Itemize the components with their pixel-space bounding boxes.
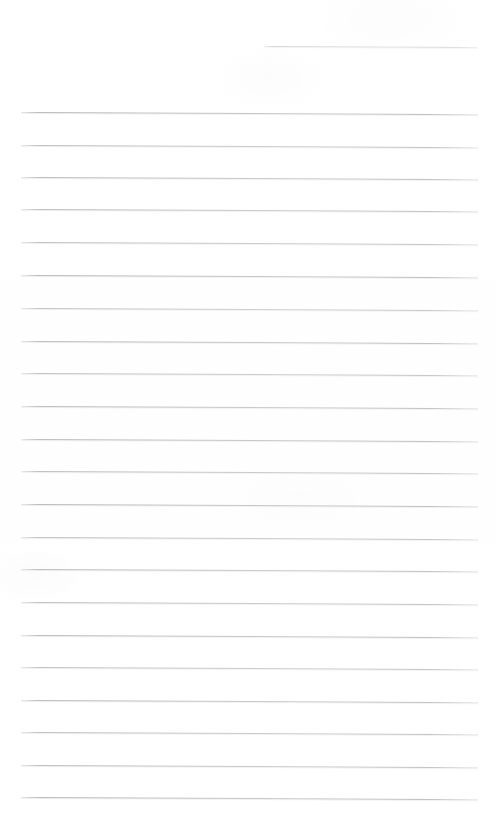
rule-line <box>21 406 478 409</box>
rule-line <box>21 112 478 115</box>
scanned-page <box>0 0 496 828</box>
rule-line <box>21 504 478 507</box>
rule-line <box>21 209 478 212</box>
rule-line <box>21 341 478 344</box>
rule-line <box>21 373 478 376</box>
rule-line <box>21 765 478 768</box>
rule-line <box>21 700 478 703</box>
rule-line <box>21 242 478 245</box>
rule-line <box>21 602 478 605</box>
rule-line <box>21 797 478 800</box>
rule-line <box>21 145 478 148</box>
rule-line-partial <box>264 46 478 48</box>
rule-line <box>21 439 478 442</box>
rule-line <box>21 732 478 735</box>
rule-line <box>21 275 478 278</box>
rule-line <box>21 537 478 540</box>
rule-line <box>21 635 478 638</box>
rule-line <box>21 308 478 311</box>
rule-line <box>21 667 478 670</box>
rule-line <box>21 471 478 474</box>
rule-line <box>21 177 478 180</box>
rule-line <box>21 569 478 572</box>
